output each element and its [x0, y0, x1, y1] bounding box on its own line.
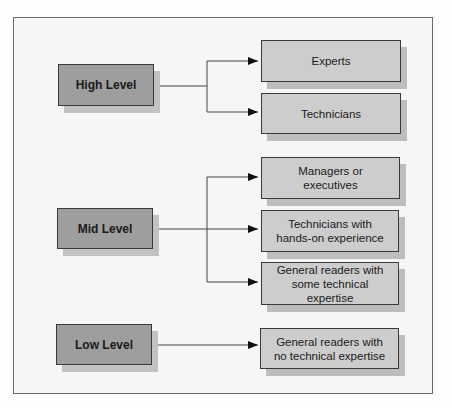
- audience-label: Experts: [312, 54, 351, 68]
- audience-label: Managers or executives: [270, 164, 391, 192]
- mid-level-box: Mid Level: [57, 208, 153, 249]
- audience-label: General readers with no technical expert…: [269, 335, 390, 363]
- audience-box-general-no-expertise: General readers with no technical expert…: [260, 328, 399, 369]
- high-level-label: High Level: [76, 78, 137, 92]
- audience-box-technicians-hands-on: Technicians with hands-on experience: [261, 210, 399, 252]
- low-level-label: Low Level: [75, 338, 133, 352]
- audience-label: General readers with some technical expe…: [270, 263, 390, 305]
- audience-box-experts: Experts: [261, 40, 401, 82]
- audience-label: Technicians with hands-on experience: [270, 217, 390, 245]
- audience-box-technicians: Technicians: [261, 93, 401, 134]
- high-level-box: High Level: [58, 64, 154, 106]
- audience-box-general-some-expertise: General readers with some technical expe…: [261, 262, 399, 305]
- audience-label: Technicians: [301, 107, 361, 121]
- audience-box-managers: Managers or executives: [261, 157, 400, 199]
- low-level-box: Low Level: [56, 324, 152, 365]
- mid-level-label: Mid Level: [78, 222, 133, 236]
